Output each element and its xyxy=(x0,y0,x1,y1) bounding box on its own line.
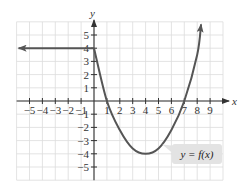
function-curve xyxy=(19,24,201,153)
y-tick-label: −4 xyxy=(77,148,89,160)
function-label-text: y = f(x) xyxy=(179,148,213,161)
y-axis-label: y xyxy=(89,7,95,19)
label-pointer xyxy=(162,145,176,156)
x-tick-label: 9 xyxy=(207,104,213,116)
x-axis-label: x xyxy=(231,95,237,107)
y-tick-label: 1 xyxy=(84,82,90,94)
x-tick-label: 3 xyxy=(130,104,136,116)
y-tick-label: −2 xyxy=(77,121,89,133)
function-graph: −5−4−3−2−1123456789−5−4−3−2−112345 y = f… xyxy=(0,0,240,191)
x-tick-label: −3 xyxy=(49,104,61,116)
y-tick-label: −1 xyxy=(77,108,89,120)
x-tick-label: −2 xyxy=(62,104,74,116)
y-tick-label: −3 xyxy=(77,135,89,147)
x-tick-label: 2 xyxy=(117,104,123,116)
y-tick-label: 5 xyxy=(84,29,90,41)
y-tick-label: 2 xyxy=(84,69,90,81)
parabola-curve xyxy=(94,24,201,153)
x-tick-label: −5 xyxy=(24,104,36,116)
y-tick-label: −5 xyxy=(77,161,89,173)
x-tick-label: 5 xyxy=(156,104,162,116)
x-tick-label: 8 xyxy=(194,104,200,116)
x-tick-label: 4 xyxy=(143,104,149,116)
x-tick-label: 6 xyxy=(169,104,175,116)
x-tick-label: −4 xyxy=(37,104,49,116)
y-tick-label: 3 xyxy=(84,55,90,67)
